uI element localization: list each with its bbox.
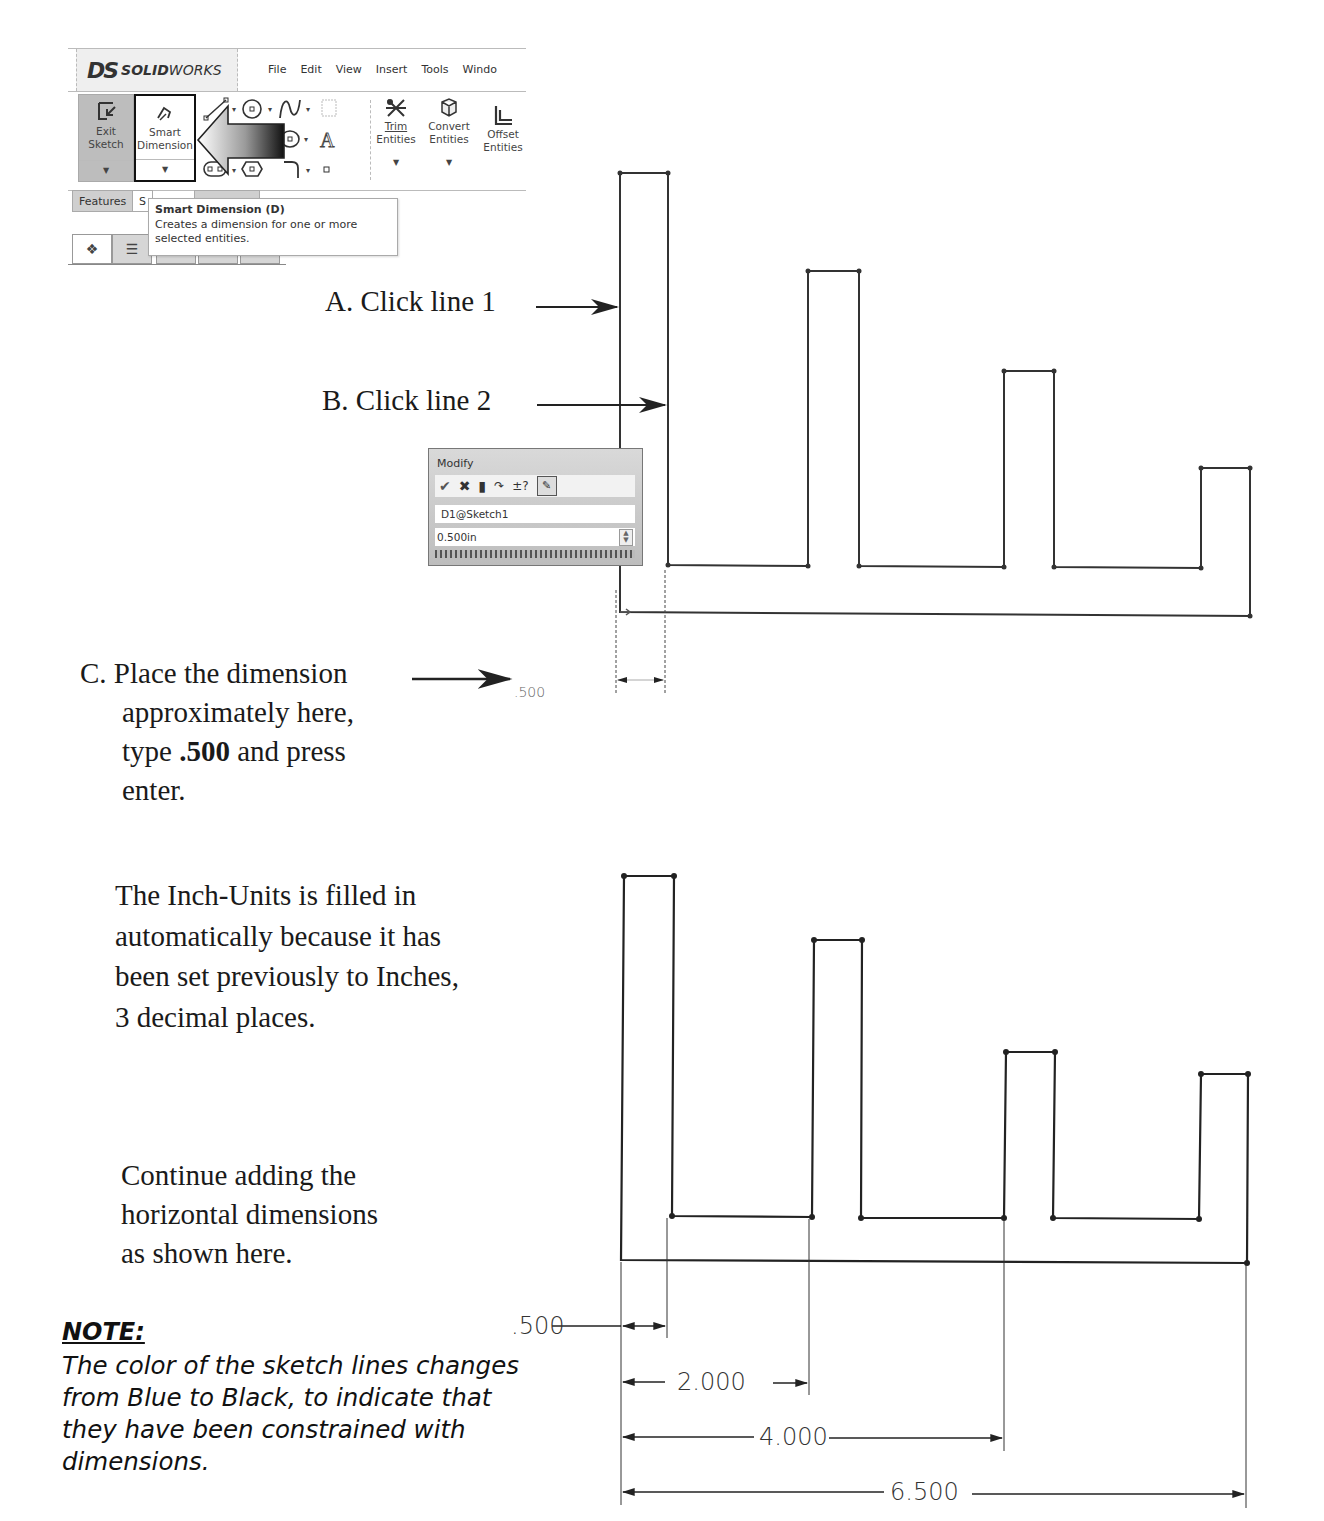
value-spinner[interactable]: ▲▼ [619,529,633,546]
top-sketch-vertices [618,171,1253,619]
dimension-name-field: D1@Sketch1 [435,505,635,523]
top-sketch-profile [620,173,1250,616]
bottom-sketch-profile [621,876,1248,1263]
dimension-0-500[interactable]: .500 [511,1312,564,1340]
dimension-value-input[interactable]: 0.500in ▲▼ [435,528,635,546]
checkmark-icon[interactable]: ✔ [439,478,451,494]
thumbwheel-slider[interactable] [435,550,635,558]
dimension-2-000[interactable]: 2.000 [677,1368,746,1396]
close-icon[interactable]: ✖ [459,478,471,494]
dimension-lines [552,1326,1244,1494]
modify-dialog: Modify ✔ ✖ ▮ ↷ ±? ✎ D1@Sketch1 0.500in ▲… [428,448,643,566]
sketch-drawings [0,0,1324,1521]
dimension-4-000[interactable]: 4.000 [759,1423,828,1451]
placed-dimension-preview: .500 [514,684,545,700]
modify-toolbar: ✔ ✖ ▮ ↷ ±? ✎ [435,475,635,497]
modify-title: Modify [437,457,473,470]
bottom-sketch-vertices [621,873,1251,1266]
tolerance-icon[interactable]: ±? [512,479,528,493]
origin-icon [620,609,630,615]
regenerate-icon[interactable]: ▮ [478,478,486,494]
reverse-icon[interactable]: ↷ [494,479,504,493]
dimension-6-500[interactable]: 6.500 [890,1478,959,1506]
mark-for-drawing-icon[interactable]: ✎ [537,476,557,496]
